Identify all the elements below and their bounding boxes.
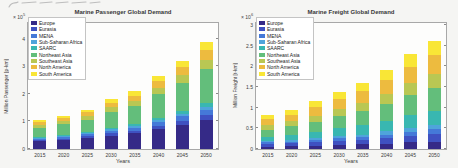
bar-segment-northeast-asia[interactable] [404, 95, 417, 115]
bar-segment-southeast-asia[interactable] [200, 60, 213, 70]
bar-segment-southeast-asia[interactable] [57, 121, 70, 124]
bar-segment-southeast-asia[interactable] [81, 116, 94, 120]
bar-segment-north-america[interactable] [380, 80, 393, 94]
bar-segment-northeast-asia[interactable] [81, 120, 94, 133]
bar-segment-sub-saharan-africa[interactable] [33, 138, 46, 139]
bar-segment-north-america[interactable] [200, 50, 213, 60]
bar-segment-europe[interactable] [333, 145, 346, 149]
bar-segment-sub-saharan-africa[interactable] [261, 141, 274, 142]
bar-segment-saarc[interactable] [261, 137, 274, 142]
bar-segment-mena[interactable] [176, 116, 189, 120]
bar-segment-saarc[interactable] [57, 135, 70, 136]
bar-segment-saarc[interactable] [285, 135, 298, 140]
bar-segment-sub-saharan-africa[interactable] [81, 133, 94, 134]
bar-segment-mena[interactable] [57, 137, 70, 139]
bar-segment-saarc[interactable] [356, 125, 369, 134]
bar-segment-northeast-asia[interactable] [128, 106, 141, 124]
bar-segment-saarc[interactable] [200, 103, 213, 106]
bar-segment-north-america[interactable] [81, 112, 94, 116]
bar-segment-saarc[interactable] [81, 132, 94, 133]
bar-segment-europe[interactable] [309, 146, 322, 149]
bar-segment-northeast-asia[interactable] [380, 104, 393, 121]
bar-segment-eurasia[interactable] [428, 134, 441, 141]
legend[interactable]: EuropeEurasiaMENASub-Saharan AfricaSAARC… [256, 17, 314, 80]
bar-segment-south-america[interactable] [309, 101, 322, 107]
bar-segment-sub-saharan-africa[interactable] [333, 136, 346, 138]
bar-segment-north-america[interactable] [57, 118, 70, 121]
bar-segment-south-america[interactable] [105, 99, 118, 103]
bar-segment-europe[interactable] [380, 144, 393, 149]
bar-segment-saarc[interactable] [380, 121, 393, 132]
bar-segment-sub-saharan-africa[interactable] [176, 114, 189, 117]
bar-segment-europe[interactable] [105, 136, 118, 150]
bar-segment-sub-saharan-africa[interactable] [380, 131, 393, 134]
bar-segment-south-america[interactable] [57, 116, 70, 118]
bar-segment-eurasia[interactable] [128, 131, 141, 134]
bar-segment-northeast-asia[interactable] [200, 69, 213, 103]
bar-segment-south-america[interactable] [380, 70, 393, 80]
bar-segment-saarc[interactable] [128, 124, 141, 126]
bar-segment-europe[interactable] [128, 133, 141, 149]
bar-segment-northeast-asia[interactable] [176, 83, 189, 111]
bar-segment-saarc[interactable] [428, 111, 441, 125]
bar-segment-europe[interactable] [261, 147, 274, 149]
bar-segment-eurasia[interactable] [333, 141, 346, 145]
bar-segment-south-america[interactable] [261, 115, 274, 120]
bar-segment-north-america[interactable] [152, 81, 165, 88]
bar-segment-southeast-asia[interactable] [105, 107, 118, 111]
bar-segment-mena[interactable] [309, 140, 322, 142]
bar-segment-north-america[interactable] [333, 99, 346, 109]
bar-segment-saarc[interactable] [105, 128, 118, 129]
bar-segment-north-america[interactable] [428, 55, 441, 74]
bar-segment-europe[interactable] [176, 125, 189, 149]
bar-segment-sub-saharan-africa[interactable] [428, 125, 441, 129]
bar-segment-north-america[interactable] [404, 67, 417, 83]
bar-segment-sub-saharan-africa[interactable] [285, 140, 298, 142]
bar-segment-southeast-asia[interactable] [380, 94, 393, 104]
legend[interactable]: EuropeEurasiaMENASub-Saharan AfricaSAARC… [28, 17, 86, 80]
bar-segment-mena[interactable] [356, 137, 369, 140]
bar-segment-saarc[interactable] [33, 137, 46, 138]
bar-segment-north-america[interactable] [356, 91, 369, 103]
legend-item-sub-saharan-africa[interactable]: Sub-Saharan Africa [31, 39, 82, 45]
bar-segment-south-america[interactable] [285, 110, 298, 115]
bar-segment-south-america[interactable] [333, 92, 346, 99]
bar-segment-eurasia[interactable] [285, 143, 298, 146]
bar-segment-sub-saharan-africa[interactable] [128, 126, 141, 128]
bar-segment-southeast-asia[interactable] [285, 121, 298, 126]
bar-segment-mena[interactable] [33, 139, 46, 140]
bar-segment-europe[interactable] [404, 142, 417, 149]
bar-segment-southeast-asia[interactable] [309, 116, 322, 122]
legend-item-sub-saharan-africa[interactable]: Sub-Saharan Africa [259, 39, 310, 45]
bar-segment-sub-saharan-africa[interactable] [57, 136, 70, 137]
bar-segment-europe[interactable] [152, 129, 165, 149]
bar-segment-sub-saharan-africa[interactable] [152, 120, 165, 122]
bar-segment-southeast-asia[interactable] [404, 83, 417, 95]
bar-segment-southeast-asia[interactable] [152, 88, 165, 95]
bar-segment-south-america[interactable] [152, 76, 165, 81]
bar-segment-eurasia[interactable] [309, 142, 322, 145]
bar-segment-north-america[interactable] [261, 119, 274, 125]
bar-segment-saarc[interactable] [176, 111, 189, 114]
bar-segment-eurasia[interactable] [261, 144, 274, 146]
bar-segment-sub-saharan-africa[interactable] [356, 135, 369, 137]
bar-segment-south-america[interactable] [33, 120, 46, 122]
bar-segment-southeast-asia[interactable] [128, 101, 141, 106]
bar-segment-mena[interactable] [152, 122, 165, 126]
bar-segment-eurasia[interactable] [380, 138, 393, 143]
bar-segment-northeast-asia[interactable] [33, 128, 46, 137]
bar-segment-sub-saharan-africa[interactable] [200, 107, 213, 110]
bar-segment-north-america[interactable] [33, 122, 46, 125]
bar-segment-europe[interactable] [200, 120, 213, 149]
bar-segment-southeast-asia[interactable] [261, 125, 274, 130]
bar-segment-north-america[interactable] [105, 103, 118, 107]
bar-segment-southeast-asia[interactable] [428, 74, 441, 88]
bar-segment-southeast-asia[interactable] [356, 103, 369, 112]
bar-segment-mena[interactable] [261, 142, 274, 144]
bar-segment-sub-saharan-africa[interactable] [309, 138, 322, 140]
bar-segment-europe[interactable] [428, 142, 441, 149]
bar-segment-south-america[interactable] [81, 110, 94, 113]
bar-segment-south-america[interactable] [428, 41, 441, 55]
bar-segment-south-america[interactable] [176, 61, 189, 67]
bar-segment-mena[interactable] [285, 142, 298, 144]
